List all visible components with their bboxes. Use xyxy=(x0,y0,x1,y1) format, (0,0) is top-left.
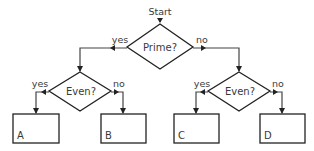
arrowhead-icon xyxy=(279,108,285,114)
edge-even-right-no: no xyxy=(270,78,285,114)
start-arrowhead-icon xyxy=(157,18,163,23)
decision-even-right-label: Even? xyxy=(225,86,255,97)
decision-prime-label: Prime? xyxy=(143,42,177,53)
outcome-label-a: A xyxy=(17,130,24,141)
outcome-box-a: A xyxy=(13,114,59,143)
edge-even-left-no: no xyxy=(111,78,126,114)
arrowhead-icon xyxy=(110,45,115,51)
outcome-label-d: D xyxy=(264,130,272,141)
outcome-box-d: D xyxy=(260,114,305,143)
edge-label-even-left-no: no xyxy=(113,78,125,89)
arrowhead-icon xyxy=(33,108,39,114)
edge-label-even-right-yes: yes xyxy=(194,78,210,89)
edge-even-left-yes: yes xyxy=(32,78,49,114)
edge-label-prime-no: no xyxy=(196,34,208,45)
outcome-box-b: B xyxy=(101,114,146,143)
edge-label-even-right-no: no xyxy=(272,78,284,89)
edge-label-prime-yes: yes xyxy=(112,34,128,45)
arrowhead-icon xyxy=(236,66,242,72)
arrowhead-icon xyxy=(273,89,278,95)
outcome-label-c: C xyxy=(178,130,185,141)
decision-even-left-label: Even? xyxy=(66,86,96,97)
edge-prime-yes: yes xyxy=(77,34,128,72)
flowchart: Start Prime? yes no Even? yes no xyxy=(0,0,314,151)
outcome-label-b: B xyxy=(105,130,112,141)
start-label: Start xyxy=(148,6,171,17)
outcome-box-c: C xyxy=(174,114,219,143)
decision-even-left: Even? xyxy=(49,72,111,111)
arrowhead-icon xyxy=(41,89,46,95)
arrowhead-icon xyxy=(114,89,119,95)
arrowhead-icon xyxy=(77,66,83,72)
arrowhead-icon xyxy=(201,45,206,51)
decision-prime: Prime? xyxy=(127,24,193,69)
edge-label-even-left-yes: yes xyxy=(32,78,48,89)
arrowhead-icon xyxy=(120,108,126,114)
edge-prime-no: no xyxy=(193,34,242,72)
decision-even-right: Even? xyxy=(208,72,270,111)
arrowhead-icon xyxy=(200,89,205,95)
arrowhead-icon xyxy=(193,108,199,114)
edge-even-right-yes: yes xyxy=(193,78,210,114)
